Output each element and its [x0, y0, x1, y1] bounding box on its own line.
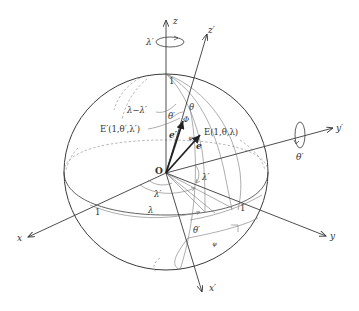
lambda-prime-equator-arc [140, 185, 195, 193]
label-rotation-z: λ′ [145, 37, 154, 47]
radial-1 [166, 173, 232, 208]
y-axis [166, 173, 326, 236]
label-psi-top: ψ [188, 134, 194, 142]
label-unit-y: 1 [240, 203, 245, 213]
label-vector-e-prime: e′ [169, 130, 178, 140]
label-unit-x: 1 [95, 207, 100, 217]
label-y-prime-axis: y′ [335, 123, 343, 133]
label-psi-bottom: ψ [212, 240, 218, 248]
vector-e [166, 135, 200, 173]
label-Phi: Φ [183, 115, 189, 124]
x-axis [28, 173, 166, 237]
label-theta-prime-bottom: θ′ [193, 225, 200, 235]
sphere-rotation-diagram: z z′ y′ y x x′ λ′ θ′ O E(1,θ,λ) E′(1,θ′,… [0, 0, 359, 311]
label-theta-prime-top: θ′ [168, 111, 175, 121]
lambda-equator-arc [90, 205, 200, 218]
label-x-axis: x [17, 233, 22, 243]
hidden-arc-left [66, 148, 78, 170]
label-rotation-yprime: θ′ [296, 152, 303, 162]
label-vector-e: e [196, 141, 202, 151]
rotation-yprime-arrow-icon [294, 140, 299, 144]
label-point-E-prime: E′(1,θ′,λ′) [100, 124, 140, 134]
label-lambda-equator: λ [147, 205, 153, 215]
right-angle-mark [231, 225, 238, 232]
vector-e-prime [166, 121, 183, 173]
rotation-z-icon [156, 37, 184, 47]
rotation-z-arrow-icon [174, 36, 178, 40]
label-x-prime-axis: x′ [209, 283, 216, 293]
label-lambda-prime-equator: λ′ [153, 189, 161, 199]
leader-E-prime [148, 118, 180, 129]
label-unit-z: 1 [169, 76, 174, 86]
label-lambda-prime-right: λ′ [201, 172, 209, 182]
label-y-axis: y [329, 231, 336, 241]
label-origin: O [155, 166, 163, 176]
label-point-E: E(1,θ,λ) [204, 127, 238, 137]
label-z-prime-axis: z′ [207, 25, 215, 35]
rotation-yprime-icon [295, 122, 305, 148]
label-z-axis: z [172, 16, 178, 26]
label-theta: θ [189, 102, 194, 112]
meridian-3 [166, 74, 241, 210]
hidden-arc-right [240, 140, 265, 170]
label-lambda-diff: λ−λ′ [126, 105, 147, 115]
